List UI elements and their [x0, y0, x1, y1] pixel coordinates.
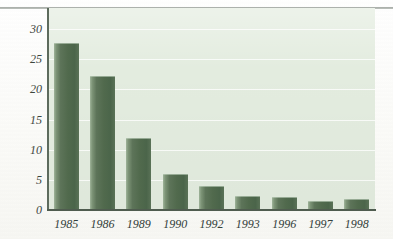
plot-area: [48, 8, 375, 210]
bar: [199, 186, 224, 210]
bar: [235, 196, 260, 210]
y-axis-tick-labels: 051015202530: [0, 0, 47, 239]
y-axis-line: [47, 8, 49, 211]
bar: [90, 76, 115, 210]
gridline: [48, 59, 375, 60]
y-axis-tick-label: 0: [3, 204, 47, 216]
x-axis-tick-label: 1986: [91, 217, 115, 231]
x-axis-tick-label: 1985: [54, 217, 78, 231]
gridline: [48, 29, 375, 30]
x-axis-tick-label: 1996: [272, 217, 296, 231]
x-axis-tick-label: 1997: [309, 217, 333, 231]
y-axis-tick-label: 5: [3, 174, 47, 186]
x-axis-tick-label: 1989: [127, 217, 151, 231]
x-axis-tick-label: 1992: [200, 217, 224, 231]
y-axis-tick-label: 20: [3, 83, 47, 95]
x-axis-line: [47, 209, 376, 211]
x-axis-tick-label: 1998: [345, 217, 369, 231]
bar: [163, 174, 188, 210]
bar: [126, 138, 151, 210]
y-axis-tick-label: 10: [3, 144, 47, 156]
x-axis-tick-label: 1993: [236, 217, 260, 231]
y-axis-tick-label: 25: [3, 53, 47, 65]
y-axis-tick-label: 30: [3, 23, 47, 35]
x-axis-tick-label: 1990: [163, 217, 187, 231]
y-axis-tick-label: 15: [3, 114, 47, 126]
bar: [54, 43, 79, 210]
bar-chart-figure: 051015202530 198519861989199019921993199…: [0, 0, 393, 239]
x-axis-tick-labels: 198519861989199019921993199619971998: [48, 213, 375, 237]
